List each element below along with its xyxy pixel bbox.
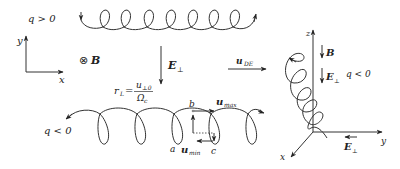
u-min-label: u [181,144,188,155]
right-e-label: E [325,71,334,82]
larmor-r-sub: L [119,90,124,97]
bottom-charge-label: q < 0 [44,125,72,136]
right-b-label: B [325,47,334,58]
center-efield-label: E [167,59,177,72]
larmor-eq: = [125,85,133,96]
left-x-label: x [59,74,65,85]
larmor-num-sub: ⊥0 [142,84,152,91]
drift-velocity: u DE [228,56,266,69]
top-spiral-path [81,10,255,30]
bottom-start-arrow [66,114,72,119]
drift-label: u [236,56,243,66]
top-charge-label: q > 0 [28,13,56,24]
y-axis-label: y [380,136,387,146]
u-max-label: u [216,96,223,107]
point-b-label: b [189,99,195,109]
drift-diagram: q > 0 y x ⊗ B E ⊥ r L = u ⊥0 Ω c u DE q … [0,0,400,169]
drift-sub: DE [243,60,254,67]
u-min-sub: min [189,149,201,156]
point-a-label: a [170,144,175,154]
bottom-helix: q < 0 a b c u max u min [44,96,264,156]
point-b-marker [192,110,195,113]
left-b-label: B [90,54,100,67]
left-y-label: y [16,35,23,46]
right-bottom-e-sub: ⊥ [352,147,358,154]
left-axes: y x ⊗ B [16,35,100,85]
x-axis [291,132,313,157]
right-e-sub: ⊥ [334,77,340,84]
point-c-label: c [211,146,216,156]
center-efield: E ⊥ [161,46,184,84]
larmor-den-sub: c [144,97,148,104]
u-max-sub: max [224,101,237,108]
b-into-page-icon: ⊗ [79,54,88,67]
top-end-arrow [254,14,256,22]
z-axis-label: z [305,29,311,38]
right-3d-helix [286,53,328,138]
x-axis-label: x [280,152,285,162]
right-3d-panel: z y x B E ⊥ q < 0 E ⊥ [280,29,387,162]
right-helix-arrow [289,58,296,62]
right-bottom-e-label: E [343,141,352,152]
larmor-radius-eq: r L = u ⊥0 Ω c [114,80,153,104]
top-helix: q > 0 [28,10,256,30]
right-charge-label: q < 0 [346,69,371,79]
bottom-spiral-path [69,108,263,144]
center-efield-sub: ⊥ [177,66,184,74]
